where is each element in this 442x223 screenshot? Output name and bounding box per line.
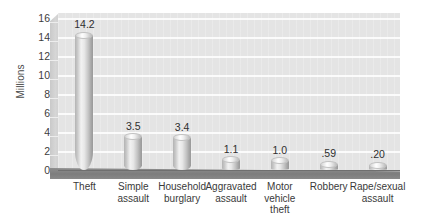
bar-value-label: 1.1	[204, 144, 258, 155]
bar-value-label: .59	[302, 148, 356, 159]
bar-body	[124, 137, 142, 170]
bar-2	[173, 138, 191, 170]
bar-top-cap	[222, 156, 240, 163]
bar-value-label: .20	[351, 149, 405, 160]
bar-value-label: 3.4	[155, 122, 209, 133]
bar-1	[124, 137, 142, 170]
bar-value-label: 14.2	[57, 19, 111, 30]
bar-value-label: 3.5	[106, 121, 160, 132]
category-label-line: Rape/sexual	[345, 181, 411, 193]
category-label-line: vehicle	[247, 193, 313, 205]
bar-top-cap	[320, 161, 338, 168]
bar-5	[320, 164, 338, 170]
bar-4	[271, 161, 289, 171]
bar-3	[222, 160, 240, 170]
bar-top-cap	[369, 162, 387, 169]
bars-layer: 14.2Theft3.5Simpleassault3.4Householdbur…	[0, 0, 442, 223]
bar-body	[75, 35, 93, 170]
x-axis-category-label: Rape/sexualassault	[345, 181, 411, 204]
bar-body	[173, 138, 191, 170]
bar-chart: Millions 0246810121416 14.2Theft3.5Simpl…	[0, 0, 442, 223]
category-label-line: assault	[345, 193, 411, 205]
bar-top-cap	[271, 157, 289, 164]
bar-value-label: 1.0	[253, 145, 307, 156]
bar-0	[75, 35, 93, 170]
bar-6	[369, 165, 387, 170]
bar-top-cap	[75, 32, 93, 39]
category-label-line: theft	[247, 204, 313, 216]
